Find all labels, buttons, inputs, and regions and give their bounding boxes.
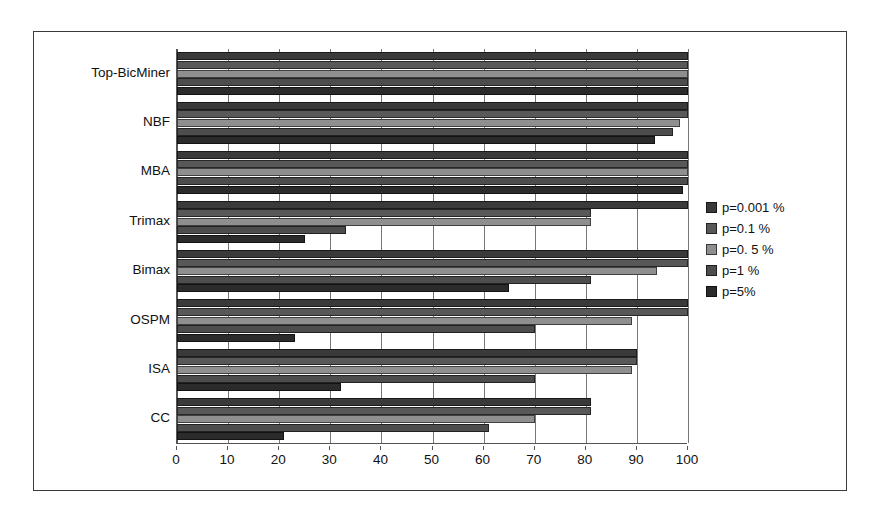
bar[interactable] (177, 317, 632, 325)
bar[interactable] (177, 235, 305, 243)
x-tickmark-40 (380, 446, 381, 450)
bar-group-bars (177, 250, 687, 292)
bar[interactable] (177, 209, 591, 217)
bar[interactable] (177, 407, 591, 415)
bar[interactable] (177, 218, 591, 226)
bar[interactable] (177, 276, 591, 284)
bar[interactable] (177, 334, 295, 342)
x-tickmark-20 (278, 446, 279, 450)
bar-track (177, 168, 687, 176)
bar-track (177, 177, 687, 185)
bar[interactable] (177, 136, 655, 144)
legend-item[interactable]: p=0. 5 % (706, 239, 841, 260)
x-tickmark-0 (176, 446, 177, 450)
bar[interactable] (177, 201, 688, 209)
y-axis-label-isa: ISA (40, 361, 170, 376)
bar[interactable] (177, 432, 284, 440)
legend-item[interactable]: p=5% (706, 281, 841, 302)
bar[interactable] (177, 383, 341, 391)
bar[interactable] (177, 226, 346, 234)
bar[interactable] (177, 424, 489, 432)
x-tick-label: 20 (271, 452, 286, 467)
bar[interactable] (177, 308, 688, 316)
x-tickmark-70 (534, 446, 535, 450)
bar-group (177, 98, 687, 147)
bar[interactable] (177, 186, 683, 194)
bar-group (177, 148, 687, 197)
legend-item[interactable]: p=0.001 % (706, 197, 841, 218)
bar[interactable] (177, 87, 688, 95)
x-tick-label: 60 (475, 452, 490, 467)
legend-swatch-icon (706, 202, 717, 213)
bar[interactable] (177, 325, 535, 333)
bar[interactable] (177, 250, 688, 258)
x-tickmark-80 (585, 446, 586, 450)
bar[interactable] (177, 70, 688, 78)
legend-item[interactable]: p=1 % (706, 260, 841, 281)
bar-track (177, 52, 687, 60)
y-axis-label-trimax: Trimax (40, 213, 170, 228)
bar[interactable] (177, 375, 535, 383)
bar-track (177, 415, 687, 423)
bar[interactable] (177, 267, 657, 275)
bar[interactable] (177, 299, 688, 307)
bar-track (177, 424, 687, 432)
plot-area (176, 49, 687, 444)
bar-track (177, 119, 687, 127)
bar[interactable] (177, 61, 688, 69)
bar[interactable] (177, 52, 688, 60)
bar[interactable] (177, 284, 509, 292)
bar[interactable] (177, 398, 591, 406)
legend-label: p=5% (722, 284, 756, 299)
bar-track (177, 218, 687, 226)
y-axis-label-mba: MBA (40, 163, 170, 178)
bar-track (177, 317, 687, 325)
bar[interactable] (177, 366, 632, 374)
bar-track (177, 128, 687, 136)
bar[interactable] (177, 168, 688, 176)
legend-swatch-icon (706, 265, 717, 276)
chart-figure: Top-BicMinerNBFMBATrimaxBimaxOSPMISACC 0… (33, 31, 847, 491)
bar-track (177, 250, 687, 258)
bar[interactable] (177, 349, 637, 357)
legend-swatch-icon (706, 244, 717, 255)
bar-track (177, 299, 687, 307)
y-axis-category-labels: Top-BicMinerNBFMBATrimaxBimaxOSPMISACC (34, 49, 170, 444)
bar[interactable] (177, 259, 688, 267)
bar-group-bars (177, 102, 687, 144)
bar-group-bars (177, 201, 687, 243)
bar-track (177, 61, 687, 69)
x-tickmark-100 (687, 446, 688, 450)
bar[interactable] (177, 177, 688, 185)
y-axis-label-bimax: Bimax (40, 262, 170, 277)
bar-track (177, 325, 687, 333)
bar[interactable] (177, 357, 637, 365)
bar[interactable] (177, 119, 680, 127)
bar-track (177, 334, 687, 342)
bar[interactable] (177, 160, 688, 168)
bar[interactable] (177, 102, 688, 110)
bar[interactable] (177, 415, 535, 423)
bar-track (177, 357, 687, 365)
bar[interactable] (177, 151, 688, 159)
bar-track (177, 136, 687, 144)
bar[interactable] (177, 110, 688, 118)
bar-track (177, 308, 687, 316)
gridline-100 (688, 49, 689, 443)
x-tickmark-90 (636, 446, 637, 450)
bar[interactable] (177, 128, 673, 136)
x-tick-label: 50 (424, 452, 439, 467)
bar-track (177, 160, 687, 168)
x-tick-label: 90 (628, 452, 643, 467)
bar-group (177, 345, 687, 394)
bar-track (177, 375, 687, 383)
legend-item[interactable]: p=0.1 % (706, 218, 841, 239)
bar-group-bars (177, 299, 687, 341)
x-tick-label: 80 (577, 452, 592, 467)
x-tick-label: 40 (373, 452, 388, 467)
bar[interactable] (177, 78, 688, 86)
x-axis-tick-labels: 0102030405060708090100 (176, 446, 687, 476)
bar-group (177, 49, 687, 98)
x-tickmark-10 (227, 446, 228, 450)
x-tick-label: 10 (220, 452, 235, 467)
